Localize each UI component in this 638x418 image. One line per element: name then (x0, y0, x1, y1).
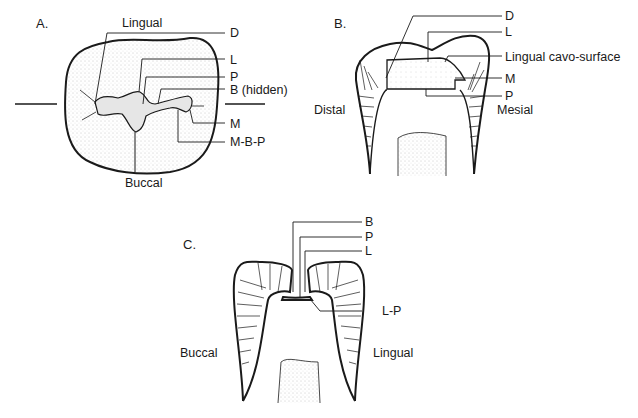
panel-a-callout-b-hidden: B (hidden) (230, 83, 288, 97)
panel-c-tooth-section (234, 262, 364, 403)
panel-a-label: A. (36, 16, 48, 31)
panel-b-callout-d: D (505, 9, 514, 23)
panel-a-callout-m: M (230, 117, 240, 131)
panel-a-orientation-bottom: Buccal (125, 176, 163, 190)
panel-c-callout-p: P (365, 230, 373, 244)
panel-a-callout-m-b-p: M-B-P (230, 135, 265, 149)
panel-b-callout-m: M (505, 72, 515, 86)
panel-b-tooth-section (356, 36, 489, 176)
panel-b-callout-lingual-cavo-surface: Lingual cavo-surface (505, 50, 620, 64)
panel-b-callout-l: L (505, 25, 512, 39)
panel-a-callout-p: P (230, 70, 238, 84)
panel-c-callout-b: B (365, 215, 373, 229)
panel-b-orientation-left: Distal (314, 103, 345, 117)
panel-c-callout-l-p: L-P (382, 304, 401, 318)
panel-b-callout-p: P (505, 89, 513, 103)
panel-a-callout-l: L (230, 53, 237, 67)
panel-c-label: C. (183, 237, 196, 252)
panel-a-tooth-occlusal (15, 38, 265, 174)
panel-b-orientation-right: Mesial (497, 103, 533, 117)
panel-c-callout-l: L (365, 244, 372, 258)
panel-a-callout-d: D (230, 26, 239, 40)
panel-b-label: B. (334, 16, 346, 31)
panel-c-orientation-right: Lingual (373, 346, 413, 360)
panel-c-orientation-left: Buccal (180, 346, 218, 360)
panel-a-orientation-top: Lingual (122, 16, 162, 30)
